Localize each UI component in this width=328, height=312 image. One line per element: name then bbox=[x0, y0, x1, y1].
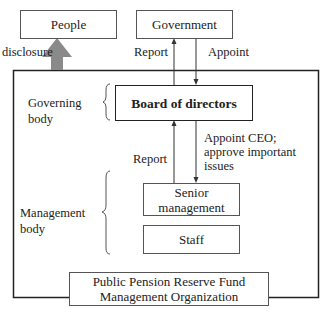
staff-label: Staff bbox=[179, 232, 204, 247]
org-line1: Public Pension Reserve Fund bbox=[93, 274, 246, 289]
people-node: People bbox=[20, 10, 117, 39]
management-brace-icon bbox=[102, 171, 110, 254]
management-body-label: Managementbody bbox=[20, 205, 85, 237]
appoint-ceo-line3: issues bbox=[204, 159, 296, 173]
management-line2: body bbox=[20, 221, 85, 237]
appoint-ceo-label: Appoint CEO;approve importantissues bbox=[204, 131, 296, 173]
appoint-ceo-line2: approve important bbox=[204, 145, 296, 159]
staff-node: Staff bbox=[143, 225, 240, 254]
report-to-government-label: Report bbox=[134, 45, 168, 60]
disclosure-label: disclosure bbox=[2, 45, 53, 60]
appoint-ceo-line1: Appoint CEO; bbox=[204, 131, 296, 145]
management-line1: Management bbox=[20, 205, 85, 221]
senior-management-node: Seniormanagement bbox=[143, 183, 240, 216]
org-line2: Management Organization bbox=[100, 289, 239, 304]
governing-line1: Governing bbox=[28, 95, 81, 111]
senior-line1: Senior bbox=[175, 185, 209, 200]
government-node: Government bbox=[136, 10, 233, 39]
governing-brace-icon bbox=[103, 84, 110, 120]
board-node: Board of directors bbox=[115, 85, 253, 121]
governing-body-label: Governingbody bbox=[28, 95, 81, 127]
government-label: Government bbox=[152, 17, 217, 32]
board-label: Board of directors bbox=[131, 96, 236, 111]
governing-line2: body bbox=[28, 111, 81, 127]
senior-line2: management bbox=[158, 200, 224, 215]
organization-node: Public Pension Reserve FundManagement Or… bbox=[69, 272, 269, 306]
report-to-board-label: Report bbox=[133, 152, 167, 167]
people-label: People bbox=[51, 17, 86, 32]
appoint-label: Appoint bbox=[208, 45, 249, 60]
